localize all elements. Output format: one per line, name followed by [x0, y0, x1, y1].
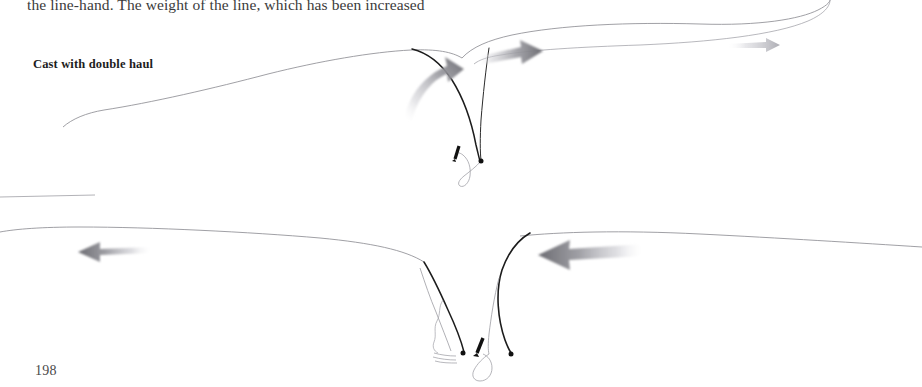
lower-fly-line-left — [0, 227, 424, 262]
lower-right-rod-grip-dot — [509, 352, 514, 357]
page-number: 198 — [35, 363, 57, 379]
upper-rod-lower-strand — [480, 48, 489, 160]
upper-rod-motion-arrow — [404, 57, 464, 121]
upper-line-motion-arrow — [477, 40, 543, 65]
upper-line-hand-mark-tip — [452, 159, 456, 162]
lower-right-line-strand — [488, 278, 499, 354]
upper-cast-diagram — [63, 0, 830, 186]
lower-cast-diagram — [0, 195, 922, 381]
upper-rod-blank — [412, 49, 480, 161]
upper-line-tip-arrow — [727, 38, 780, 52]
lower-left-line-strand — [420, 268, 451, 351]
lower-line-motion-arrow — [78, 242, 152, 262]
book-page: the line-hand. The weight of the line, w… — [0, 0, 922, 387]
lower-fly-line-right — [520, 232, 922, 247]
upper-line-hand-mark — [455, 146, 459, 159]
upper-line-slack-loop — [455, 153, 481, 187]
lower-motion-wave-marks — [433, 353, 457, 363]
lower-right-slack-loop — [473, 354, 492, 381]
lower-right-rod-blank — [498, 233, 530, 354]
lower-line-hand-mark-tip — [473, 353, 479, 357]
lower-left-rod-grip-dot — [461, 351, 466, 356]
lower-left-rod-blank — [424, 262, 464, 352]
body-text-line: the line-hand. The weight of the line, w… — [27, 0, 425, 14]
lower-rod-motion-arrow — [538, 240, 645, 270]
upper-rod-grip-dot — [479, 159, 484, 164]
lower-short-line-segment — [0, 195, 95, 197]
lower-line-hand-mark — [477, 338, 483, 353]
figure-caption: Cast with double haul — [33, 57, 153, 72]
